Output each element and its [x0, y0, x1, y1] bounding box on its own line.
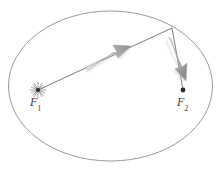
- focus2-label-subscript: 2: [184, 104, 188, 113]
- focus1-label: F1: [30, 96, 41, 111]
- focus1-label-subscript: 1: [37, 104, 41, 113]
- focus2-label: F2: [177, 96, 188, 111]
- ellipse-foci-figure: F1 F2: [0, 0, 221, 180]
- segment-focus1-to-orbit-point: [38, 28, 172, 90]
- focus2-dot-marker: [181, 88, 186, 93]
- figure-canvas: [0, 0, 221, 180]
